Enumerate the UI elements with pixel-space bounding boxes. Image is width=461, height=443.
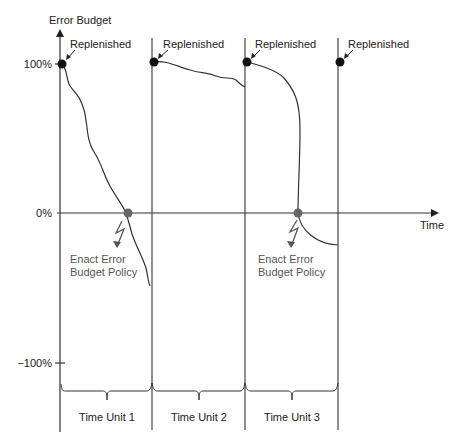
policy-label-1-line1: Enact Error [70, 253, 126, 266]
policy-label-2-line1: Enact Error [258, 253, 314, 266]
policy-lightning-icon [287, 220, 298, 248]
policy-lightning-icon [113, 221, 124, 248]
x-axis-label: Time [420, 219, 444, 232]
time-unit-braces [61, 383, 338, 400]
y-tick-minus-100: −100% [17, 357, 52, 370]
replenished-dot-icon [243, 58, 252, 67]
error-budget-diagram: Error Budget Time 100% 0% −100% Replenis… [0, 0, 461, 443]
replenished-label-1: Replenished [70, 38, 131, 51]
x-axis [57, 209, 439, 217]
exhausted-dot-icon [294, 209, 303, 218]
replenished-dot-icon [58, 60, 67, 69]
replenished-arrows [66, 50, 353, 60]
budget-curve-unit-3 [247, 62, 338, 245]
y-axis [55, 29, 65, 432]
replenished-label-4: Replenished [348, 38, 409, 51]
replenished-dot-icon [336, 58, 345, 67]
replenished-label-2: Replenished [163, 38, 224, 51]
y-tick-100: 100% [24, 58, 52, 71]
policy-label-2-line2: Budget Policy [258, 266, 325, 279]
replenished-dot-icon [150, 58, 159, 67]
replenished-label-3: Replenished [255, 38, 316, 51]
y-axis-label: Error Budget [49, 14, 111, 27]
x-axis-arrow-icon [431, 209, 439, 217]
budget-curve-unit-2 [154, 62, 245, 87]
time-unit-1-label: Time Unit 1 [79, 411, 135, 424]
exhausted-dot-icon [124, 209, 133, 218]
policy-label-1-line2: Budget Policy [70, 266, 137, 279]
diagram-canvas [0, 0, 461, 443]
y-axis-arrow-icon [56, 29, 64, 37]
replenished-markers [58, 58, 345, 69]
time-unit-2-label: Time Unit 2 [171, 411, 227, 424]
y-tick-0: 0% [36, 207, 52, 220]
time-unit-3-label: Time Unit 3 [264, 411, 320, 424]
